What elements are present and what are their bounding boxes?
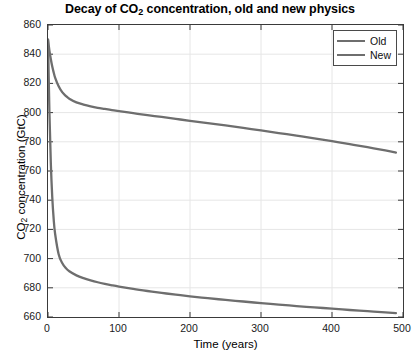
chart-title-subscript: 2: [138, 7, 143, 17]
x-tick-label: 300: [240, 322, 280, 334]
legend-label: Old: [370, 36, 386, 47]
x-tick-label: 200: [169, 322, 209, 334]
x-axis-label: Time (years): [47, 338, 404, 350]
chart-title-suffix: concentration, old and new physics: [143, 2, 355, 16]
x-tick-label: 0: [27, 322, 67, 334]
chart-title: Decay of CO2 concentration, old and new …: [0, 2, 420, 16]
data-series-group: [48, 40, 396, 313]
y-tick-label: 660: [2, 310, 41, 322]
legend-line-swatch: [337, 54, 365, 56]
chart-title-prefix: Decay of CO: [65, 2, 138, 16]
x-tick-label: 100: [98, 322, 138, 334]
y-axis-label-suffix: concentration (GtC): [15, 114, 27, 218]
chart-legend: OldNew: [333, 30, 397, 66]
y-tick-label: 680: [2, 281, 41, 293]
x-tick-label: 500: [382, 322, 420, 334]
plot-area: [47, 24, 404, 318]
legend-item-new[interactable]: New: [337, 48, 392, 62]
y-axis-label-prefix: CO: [15, 223, 27, 240]
legend-line-swatch: [337, 40, 365, 42]
x-tick-label: 400: [311, 322, 351, 334]
chart-figure: Decay of CO2 concentration, old and new …: [0, 0, 420, 357]
legend-label: New: [370, 50, 391, 61]
series-line-new: [48, 40, 396, 313]
legend-item-old[interactable]: Old: [337, 34, 392, 48]
y-axis-label-subscript: 2: [19, 218, 29, 223]
y-tick-label: 860: [2, 18, 41, 30]
gridlines: [48, 25, 403, 317]
y-tick-label: 840: [2, 47, 41, 59]
plot-canvas: [48, 25, 403, 317]
y-axis-label: CO2 concentration (GtC): [15, 77, 27, 277]
